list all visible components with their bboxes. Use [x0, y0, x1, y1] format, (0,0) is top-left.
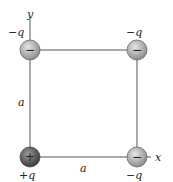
bottom-side-label: a: [80, 162, 87, 175]
charge-label: −q: [126, 169, 142, 182]
minus-sign-icon: −: [132, 43, 142, 57]
charge-bottom-right: − −q: [126, 147, 147, 182]
charge-label: +q: [19, 169, 35, 182]
x-axis-label: x: [155, 151, 162, 164]
left-side-label: a: [18, 96, 25, 109]
plus-sign-icon: +: [25, 150, 35, 164]
charge-square-diagram: y x a a − −q − −q + +q − −q: [0, 0, 173, 182]
charge-bottom-left: + +q: [19, 147, 40, 182]
charge-top-right: − −q: [126, 26, 147, 60]
charge-label: −q: [8, 26, 24, 39]
charge-label: −q: [126, 26, 142, 39]
charge-top-left: − −q: [8, 26, 40, 60]
y-axis-label: y: [26, 8, 34, 21]
minus-sign-icon: −: [25, 43, 35, 57]
minus-sign-icon: −: [132, 150, 142, 164]
